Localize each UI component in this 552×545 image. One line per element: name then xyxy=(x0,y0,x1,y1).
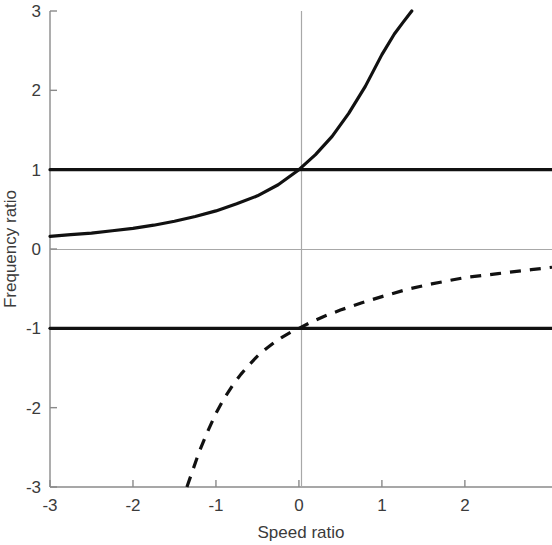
x-tick-label: 0 xyxy=(294,496,303,515)
y-tick-label: -1 xyxy=(26,319,41,338)
y-axis-title: Frequency ratio xyxy=(1,190,20,308)
chart-background xyxy=(0,0,552,545)
y-tick-label: 0 xyxy=(32,240,41,259)
y-tick-label: 2 xyxy=(32,81,41,100)
x-axis-title: Speed ratio xyxy=(258,523,345,542)
y-tick-label: -2 xyxy=(26,399,41,418)
y-tick-label: 1 xyxy=(32,161,41,180)
y-tick-label: -3 xyxy=(26,478,41,497)
x-tick-label: -3 xyxy=(42,496,57,515)
figure-container: -3-2-1012 -3-2-10123 Speed ratio Frequen… xyxy=(0,0,552,545)
x-tick-label: 1 xyxy=(377,496,386,515)
x-tick-label: -1 xyxy=(208,496,223,515)
x-tick-label: -2 xyxy=(125,496,140,515)
y-tick-label: 3 xyxy=(32,2,41,21)
frequency-ratio-vs-speed-ratio-chart: -3-2-1012 -3-2-10123 Speed ratio Frequen… xyxy=(0,0,552,545)
x-tick-label: 2 xyxy=(460,496,469,515)
